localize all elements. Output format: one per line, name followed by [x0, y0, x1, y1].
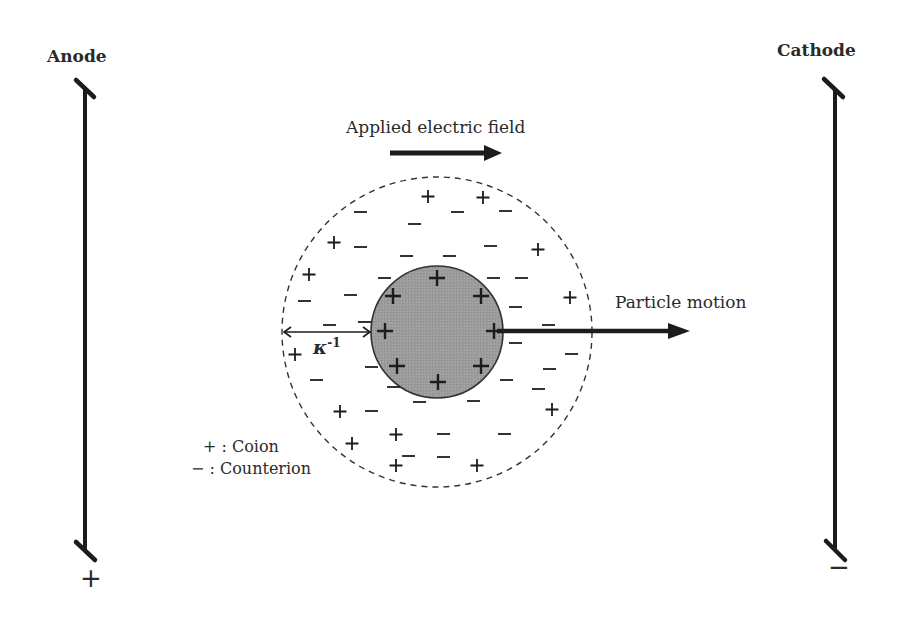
- kappa-symbol: κ: [313, 336, 327, 358]
- motion-arrow: [497, 323, 690, 339]
- cathode-polarity: −: [828, 552, 850, 582]
- field-label: Applied electric field: [346, 117, 525, 137]
- anode-polarity: +: [80, 563, 102, 593]
- kappa-exponent: -1: [327, 336, 340, 350]
- cathode-electrode: [824, 79, 845, 560]
- legend-counterion: − : Counterion: [191, 458, 311, 480]
- anode-electrode: [76, 80, 95, 560]
- legend: + : Coion − : Counterion: [201, 436, 311, 480]
- motion-label: Particle motion: [615, 292, 746, 312]
- field-arrow: [390, 145, 502, 161]
- legend-coion: + : Coion: [201, 436, 311, 458]
- cathode-label: Cathode: [777, 40, 856, 60]
- diagram-canvas: [0, 0, 916, 619]
- debye-length-label: κ-1: [313, 336, 341, 358]
- anode-label: Anode: [47, 46, 107, 66]
